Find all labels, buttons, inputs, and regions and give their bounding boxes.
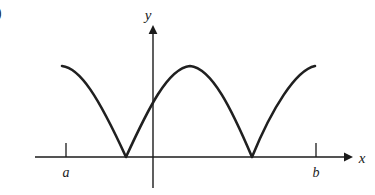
figure-container: ) y x a b — [0, 0, 375, 195]
x-axis-label: x — [358, 150, 366, 166]
graph-svg: ) y x a b — [0, 0, 375, 195]
x-axis-arrowhead — [344, 153, 353, 162]
y-axis-label: y — [143, 7, 152, 23]
tick-label-a: a — [63, 165, 70, 180]
function-curve — [62, 66, 315, 157]
tick-label-b: b — [313, 165, 320, 180]
y-axis-arrowhead — [149, 25, 158, 34]
figure-tag: ) — [0, 3, 2, 22]
